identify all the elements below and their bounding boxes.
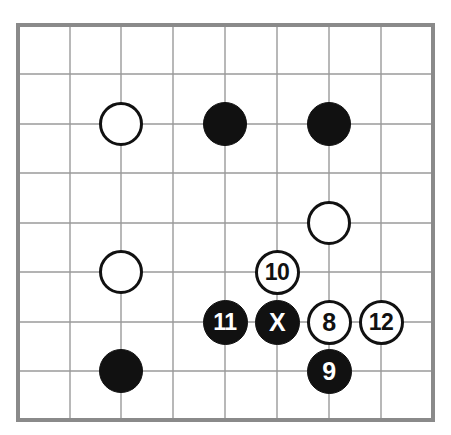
- stone-move-9: 9: [307, 349, 352, 394]
- stone-move-10: 10: [255, 250, 300, 295]
- stone-white-c6r4: [307, 201, 351, 245]
- stone-move-x: X: [255, 300, 300, 345]
- stone-label: 8: [322, 309, 335, 334]
- stone-black-c2r7: [99, 349, 143, 393]
- stone-move-8: 8: [307, 300, 352, 345]
- stone-move-12: 12: [359, 300, 404, 345]
- board-grid: [0, 0, 451, 435]
- stone-black-c6r2: [307, 102, 351, 146]
- stone-black-c4r2: [203, 102, 247, 146]
- stone-label: 10: [265, 260, 290, 283]
- stone-move-11: 11: [203, 300, 248, 345]
- stone-label: X: [269, 309, 285, 334]
- stone-label: 11: [213, 310, 236, 333]
- stone-label: 9: [322, 358, 335, 383]
- go-board-diagram: 1011X8129: [0, 0, 451, 435]
- stone-white-c2r2: [99, 102, 143, 146]
- stone-white-c2r5: [99, 250, 143, 294]
- stone-label: 12: [369, 310, 394, 333]
